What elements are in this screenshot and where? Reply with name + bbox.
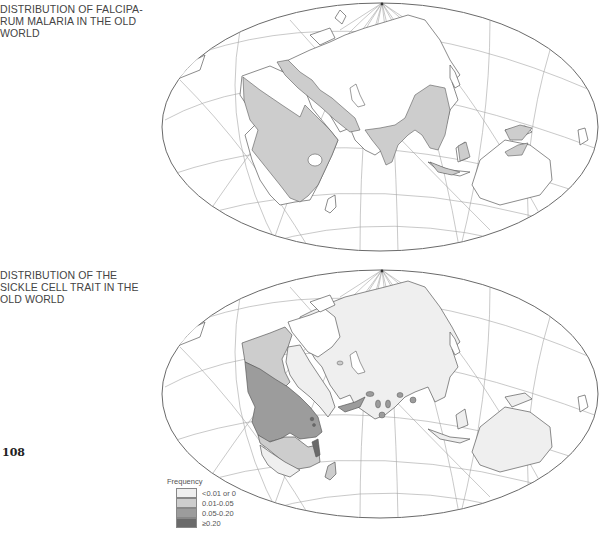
legend-item: <0.01 or 0 [167, 488, 236, 498]
caption-line: WORLD [0, 27, 160, 39]
legend-label: 0.01-0.05 [202, 499, 234, 508]
page-number: 108 [2, 446, 25, 459]
legend-swatch [176, 518, 197, 528]
legend-item: 0.05-0.20 [167, 508, 236, 518]
legend-swatch [176, 498, 197, 508]
legend-swatch [176, 508, 197, 518]
legend-item: ≥0.20 [167, 518, 236, 528]
map-falciparum-malaria [160, 0, 603, 252]
caption-line: DISTRIBUTION OF THE [0, 269, 160, 281]
legend-item: 0.01-0.05 [167, 498, 236, 508]
legend-swatch [176, 488, 197, 498]
figure-caption-falciparum-malaria: DISTRIBUTION OF FALCIPA- RUM MALARIA IN … [0, 3, 160, 39]
frequency-legend: Frequency <0.01 or 0 0.01-0.05 0.05-0.20… [167, 477, 236, 528]
legend-label: ≥0.20 [202, 519, 221, 528]
caption-line: OLD WORLD [0, 293, 160, 305]
caption-line: RUM MALARIA IN THE OLD [0, 15, 160, 27]
legend-title: Frequency [167, 477, 236, 486]
legend-label: 0.05-0.20 [202, 509, 234, 518]
caption-line: SICKLE CELL TRAIT IN THE [0, 281, 160, 293]
caption-line: DISTRIBUTION OF FALCIPA- [0, 3, 160, 15]
figure-caption-sickle-cell: DISTRIBUTION OF THE SICKLE CELL TRAIT IN… [0, 269, 160, 305]
legend-label: <0.01 or 0 [202, 489, 236, 498]
